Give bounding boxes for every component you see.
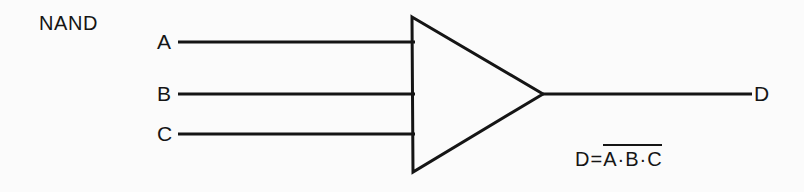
equation-dot-2: · xyxy=(639,148,648,170)
logic-gate-diagram xyxy=(0,0,804,192)
equation-dot-1: · xyxy=(616,148,625,170)
output-label-d: D xyxy=(754,83,769,104)
input-label-b: B xyxy=(157,83,171,104)
gate-body-triangle xyxy=(412,17,543,172)
gate-title-label: NAND xyxy=(39,13,98,33)
equation-operand-b: B xyxy=(625,148,638,170)
equation-lhs: D xyxy=(575,148,589,171)
input-label-a: A xyxy=(157,31,171,52)
boolean-equation: D = A·B·C xyxy=(575,144,662,171)
input-label-c: C xyxy=(157,123,172,144)
equation-operand-c: C xyxy=(647,148,661,170)
equation-negated-product: A·B·C xyxy=(603,144,661,171)
equation-equals-sign: = xyxy=(590,148,602,171)
equation-operand-a: A xyxy=(603,148,616,170)
